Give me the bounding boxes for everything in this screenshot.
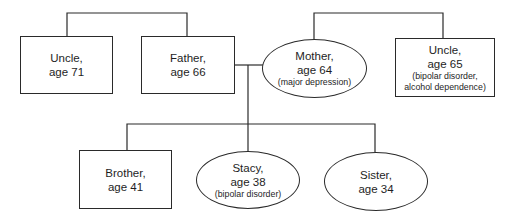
- sister-node: Sister, age 34: [324, 152, 428, 211]
- sister-age: age 34: [358, 182, 393, 196]
- uncle-maternal-condition-2: alcohol dependence): [404, 82, 486, 93]
- brother-name: Brother,: [105, 166, 145, 180]
- father-age: age 66: [170, 65, 205, 79]
- uncle-paternal-node: Uncle, age 71: [20, 36, 113, 94]
- mother-condition: (major depression): [278, 77, 351, 88]
- mother-age: age 64: [297, 63, 332, 77]
- stacy-name: Stacy,: [232, 161, 263, 175]
- mother-name: Mother,: [295, 49, 333, 63]
- sister-name: Sister,: [360, 168, 392, 182]
- stacy-node: Stacy, age 38 (bipolar disorder): [196, 151, 300, 209]
- mother-node: Mother, age 64 (major depression): [262, 39, 367, 98]
- uncle-maternal-name: Uncle,: [429, 43, 462, 57]
- stacy-condition: (bipolar disorder): [215, 189, 282, 200]
- maternal-sibling-line: [314, 13, 443, 39]
- brother-age: age 41: [108, 180, 143, 194]
- stacy-age: age 38: [230, 175, 265, 189]
- father-name: Father,: [170, 51, 206, 65]
- uncle-maternal-condition: (bipolar disorder,: [412, 71, 478, 82]
- paternal-sibling-line: [67, 13, 187, 36]
- uncle-paternal-age: age 71: [49, 65, 84, 79]
- uncle-maternal-node: Uncle, age 65 (bipolar disorder, alcohol…: [395, 38, 495, 97]
- uncle-maternal-age: age 65: [427, 57, 462, 71]
- uncle-paternal-name: Uncle,: [50, 51, 83, 65]
- father-node: Father, age 66: [141, 36, 235, 94]
- children-bar: [127, 124, 375, 152]
- brother-node: Brother, age 41: [79, 150, 172, 209]
